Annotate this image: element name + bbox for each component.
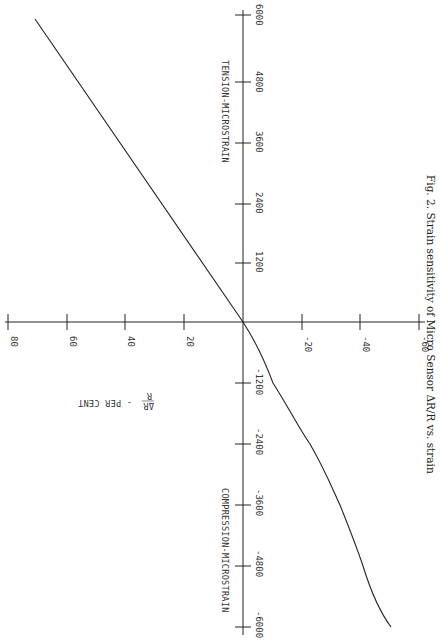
svg-text:-3600: -3600 [254, 489, 264, 516]
chart: 80 60 40 20 -20 -40 -60 6000 4800 3600 2… [0, 0, 442, 642]
svg-text:-2400: -2400 [254, 428, 264, 455]
svg-text:1200: 1200 [254, 251, 264, 273]
svg-text:80: 80 [9, 336, 19, 347]
figure-caption: Fig. 2. Strain sensitivity of Micro Sens… [425, 175, 437, 474]
svg-text:-4800: -4800 [254, 550, 264, 577]
svg-text:2400: 2400 [254, 192, 264, 214]
svg-text:20: 20 [185, 336, 195, 347]
svg-text:-1200: -1200 [254, 368, 264, 395]
svg-text:- PER CENT: - PER CENT [78, 398, 132, 408]
svg-text:3600: 3600 [254, 131, 264, 153]
svg-text:-6000: -6000 [254, 611, 264, 638]
svg-text:ΔR: ΔR [143, 401, 154, 411]
sensitivity-curve [35, 19, 391, 627]
strain-tick-labels: 6000 4800 3600 2400 1200 -1200 -2400 -36… [254, 4, 264, 638]
svg-text:4800: 4800 [254, 71, 264, 93]
dr-tick-labels: 80 60 40 20 -20 -40 -60 [9, 336, 430, 352]
svg-text:6000: 6000 [254, 4, 264, 26]
svg-text:-40: -40 [361, 336, 371, 352]
tension-label: TENSION-MICROSTRAIN [220, 60, 230, 163]
compression-label: COMPRESSION-MICROSTRAIN [220, 488, 230, 613]
svg-text:60: 60 [68, 336, 78, 347]
dr-axis-label: - PER CENT ΔR R [78, 391, 154, 411]
svg-text:-20: -20 [303, 336, 313, 352]
svg-text:R: R [146, 391, 152, 401]
svg-text:40: 40 [126, 336, 136, 347]
